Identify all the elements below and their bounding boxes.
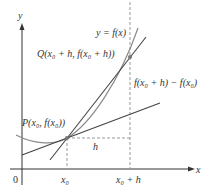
x-axis-label: x — [196, 165, 200, 175]
point-q — [128, 55, 132, 59]
point-q-label: Q(x₀ + h, f(x₀ + h)) — [37, 49, 115, 59]
y-axis-label: y — [18, 11, 22, 21]
tangent-line — [22, 103, 160, 155]
point-p — [65, 136, 69, 140]
derivative-secant-diagram: y x 0 y = f(x) Q(x₀ + h, f(x₀ + h)) P(x₀… — [0, 0, 219, 195]
rise-label: f(x₀ + h) − f(x₀) — [134, 78, 197, 88]
run-label: h — [93, 142, 98, 152]
x-axis-arrow-icon — [188, 167, 195, 172]
point-p-label: P(x₀, f(x₀)) — [22, 118, 65, 128]
origin-label: 0 — [13, 175, 18, 185]
tick-x0h: x₀ + h — [116, 175, 141, 185]
curve-label: y = f(x) — [96, 28, 126, 38]
y-axis-arrow-icon — [20, 23, 25, 30]
tick-x0: x₀ — [61, 175, 69, 185]
